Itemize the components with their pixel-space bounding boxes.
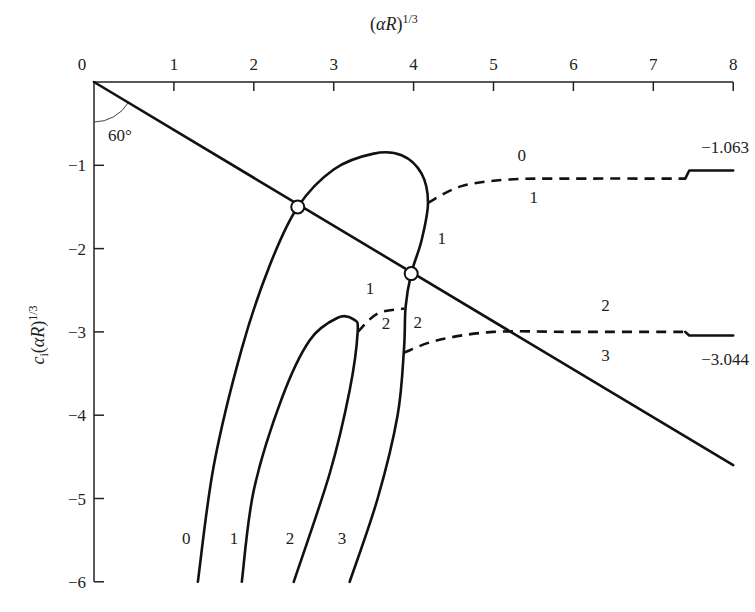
x-tick-label: 5 xyxy=(489,55,498,74)
svg-text:ci(αR)1/3: ci(αR)1/3 xyxy=(26,305,51,364)
x-tick-label: 6 xyxy=(569,55,578,74)
annotation-label: 3 xyxy=(601,346,610,365)
series-dashed-lower xyxy=(404,331,685,352)
annotation-label: 0 xyxy=(517,146,526,165)
annotations: −1.063−3.044011122230123 xyxy=(182,138,750,549)
y-axis-label: ci(αR)1/3 xyxy=(26,305,51,364)
angle-label: 60° xyxy=(108,126,132,145)
x-tick-label: 2 xyxy=(250,55,259,74)
x-axis-label: (αR)1/3 xyxy=(370,12,418,35)
series-asymptote-lower xyxy=(685,332,733,336)
series-dashed-upper xyxy=(428,179,685,203)
y-tick-label: −2 xyxy=(68,240,86,259)
x-tick-label: 1 xyxy=(170,55,179,74)
annotation-label: 2 xyxy=(601,296,610,315)
curves xyxy=(94,82,733,582)
x-tick-label: 3 xyxy=(329,55,338,74)
annotation-label: 1 xyxy=(366,279,375,298)
intersection-1-marker xyxy=(291,200,304,213)
series-outer-curve xyxy=(198,152,428,582)
chart: 012345678−1−2−3−4−5−660° −1.063−3.044011… xyxy=(0,0,755,612)
annotation-label: 2 xyxy=(414,313,423,332)
annotation-label: −3.044 xyxy=(701,350,749,369)
axes: 012345678−1−2−3−4−5−660° xyxy=(68,55,738,592)
x-tick-label: 0 xyxy=(78,55,87,74)
annotation-label: 2 xyxy=(382,314,391,333)
y-tick-label: −4 xyxy=(68,406,87,425)
series-asymptote-upper xyxy=(685,171,733,179)
angle-arc xyxy=(94,103,128,122)
annotation-label: 0 xyxy=(182,529,191,548)
annotation-label: 2 xyxy=(286,529,295,548)
y-tick-label: −5 xyxy=(68,490,86,509)
y-tick-label: −1 xyxy=(68,156,86,175)
x-tick-label: 8 xyxy=(729,55,738,74)
annotation-label: 1 xyxy=(230,529,239,548)
x-tick-label: 7 xyxy=(649,55,658,74)
annotation-label: 1 xyxy=(438,229,447,248)
annotation-label: −1.063 xyxy=(701,138,749,157)
x-tick-label: 4 xyxy=(409,55,418,74)
annotation-label: 1 xyxy=(529,188,538,207)
intersection-2-marker xyxy=(405,267,418,280)
y-tick-label: −3 xyxy=(68,323,86,342)
annotation-label: 3 xyxy=(338,529,347,548)
y-tick-label: −6 xyxy=(68,573,86,592)
